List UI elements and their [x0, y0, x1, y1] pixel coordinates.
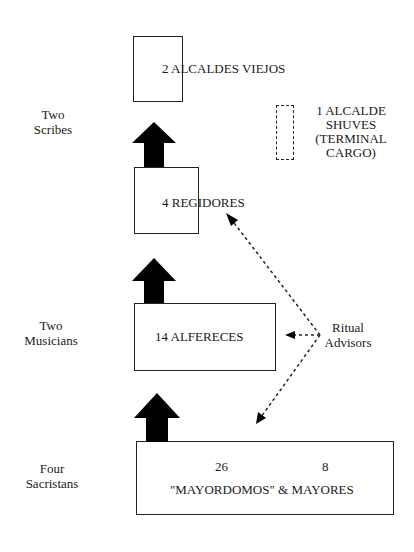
side-line: Sacristans — [7, 476, 97, 491]
count-mayordomos: 26 — [215, 460, 228, 474]
side-label-musicians: Two Musicians — [6, 318, 96, 348]
side-line: Four — [7, 461, 97, 476]
ritual-advisors-label: Ritual Advisors — [303, 320, 393, 350]
promotion-arrow-icon — [134, 393, 180, 442]
label-regidores: 4 REGIDORES — [162, 196, 245, 210]
terminal-line: (TERMINAL — [296, 132, 406, 146]
label-alcaldes-viejos: 2 ALCALDES VIEJOS — [162, 62, 285, 76]
count-mayores: 8 — [322, 460, 329, 474]
advisor-dotted-arrows — [231, 219, 320, 417]
promotion-arrow-icon — [132, 122, 176, 167]
terminal-line: SHUVES — [296, 118, 406, 132]
terminal-line: CARGO) — [296, 146, 406, 160]
side-line: Scribes — [8, 122, 98, 137]
side-label-sacristans: Four Sacristans — [7, 461, 97, 491]
terminal-cargo-label: 1 ALCALDE SHUVES (TERMINAL CARGO) — [296, 104, 406, 160]
advisors-line: Advisors — [303, 335, 393, 350]
label-mayordomos: "MAYORDOMOS" & MAYORES — [170, 483, 354, 497]
promotion-arrow-icon — [132, 258, 176, 303]
label-alfereces: 14 ALFERECES — [155, 330, 244, 344]
advisors-line: Ritual — [303, 320, 393, 335]
side-line: Two — [8, 107, 98, 122]
side-label-scribes: Two Scribes — [8, 107, 98, 137]
terminal-line: 1 ALCALDE — [296, 104, 406, 118]
arrowhead-icon — [226, 213, 295, 424]
side-line: Two — [6, 318, 96, 333]
side-line: Musicians — [6, 333, 96, 348]
